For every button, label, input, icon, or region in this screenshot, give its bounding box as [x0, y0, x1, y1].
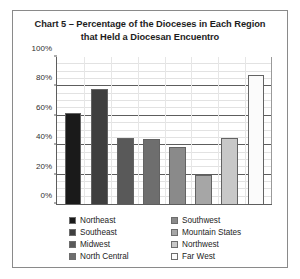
legend-label: North Central	[80, 252, 129, 262]
legend-swatch-icon	[171, 217, 178, 224]
legend-label: Midwest	[80, 240, 110, 250]
y-axis-tick-label: 100%	[32, 44, 52, 53]
bar-slot	[191, 57, 217, 204]
legend-swatch-icon	[69, 217, 76, 224]
bar-north-central[interactable]	[143, 139, 160, 204]
bar-slot	[86, 57, 112, 204]
legend-swatch-icon	[171, 229, 178, 236]
y-axis-tick-label: 20%	[36, 161, 52, 170]
bar-southwest[interactable]	[169, 147, 186, 204]
legend-label: Far West	[182, 252, 215, 262]
legend-item-southeast[interactable]: Southeast	[69, 227, 157, 238]
legend-label: Mountain States	[182, 228, 241, 238]
legend-item-far-west[interactable]: Far West	[171, 251, 259, 262]
chart-title: Chart 5 – Percentage of the Dioceses in …	[21, 18, 279, 44]
legend-item-northwest[interactable]: Northwest	[171, 239, 259, 250]
legend-swatch-icon	[69, 241, 76, 248]
chart-title-line-1: Chart 5 – Percentage of the Dioceses in …	[21, 18, 279, 31]
legend-swatch-icon	[171, 241, 178, 248]
legend-column: NortheastSoutheastMidwestNorth Central	[69, 215, 157, 262]
plot-area: 0%20%40%60%80%100%	[56, 57, 272, 205]
bar-slot	[138, 57, 164, 204]
bar-far-west[interactable]	[248, 75, 265, 204]
legend-swatch-icon	[69, 253, 76, 260]
chart-figure: Chart 5 – Percentage of the Dioceses in …	[12, 10, 288, 268]
legend-label: Southwest	[182, 216, 220, 226]
bar-slot	[165, 57, 191, 204]
bar-series	[57, 57, 272, 204]
bar-southeast[interactable]	[91, 89, 108, 204]
legend-swatch-icon	[69, 229, 76, 236]
legend-item-midwest[interactable]: Midwest	[69, 239, 157, 250]
chart-legend: NortheastSoutheastMidwestNorth CentralSo…	[69, 215, 259, 262]
legend-item-northeast[interactable]: Northeast	[69, 215, 157, 226]
legend-swatch-icon	[171, 253, 178, 260]
y-axis-tick-label: 0%	[40, 191, 52, 200]
y-axis-tick-label: 80%	[36, 73, 52, 82]
bar-mountain-states[interactable]	[195, 175, 212, 204]
y-axis-tick-label: 40%	[36, 132, 52, 141]
bar-slot	[243, 57, 269, 204]
chart-title-line-2: that Held a Diocesan Encuentro	[21, 31, 279, 44]
bar-northeast[interactable]	[65, 113, 82, 204]
legend-column: SouthwestMountain StatesNorthwestFar Wes…	[171, 215, 259, 262]
legend-item-southwest[interactable]: Southwest	[171, 215, 259, 226]
bar-northwest[interactable]	[221, 138, 238, 204]
bar-midwest[interactable]	[117, 138, 134, 204]
legend-item-mountain-states[interactable]: Mountain States	[171, 227, 259, 238]
y-axis-tick-label: 60%	[36, 102, 52, 111]
legend-label: Northwest	[182, 240, 219, 250]
legend-item-north-central[interactable]: North Central	[69, 251, 157, 262]
bar-slot	[60, 57, 86, 204]
bar-slot	[112, 57, 138, 204]
legend-label: Northeast	[80, 216, 116, 226]
bar-slot	[217, 57, 243, 204]
legend-label: Southeast	[80, 228, 117, 238]
